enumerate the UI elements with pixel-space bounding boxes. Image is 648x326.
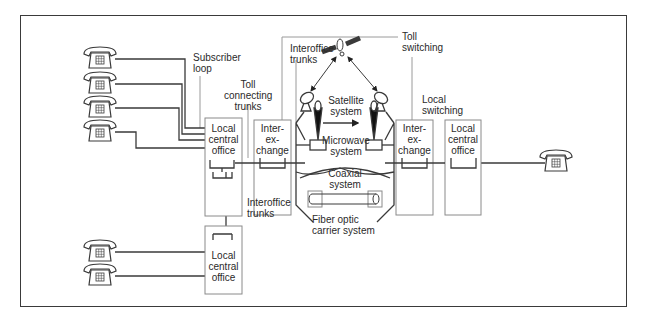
label-coaxial-system: Coaxial system — [325, 168, 365, 190]
node-local-office-left: Local central office — [205, 123, 242, 156]
label-microwave-system: Microwave system — [318, 135, 374, 157]
label-local-switching: Local switching — [422, 94, 463, 116]
node-local-office-bottom: Local central office — [205, 250, 242, 283]
label-interoffice-trunks-top: Interoffice trunks — [290, 43, 334, 65]
transmission-systems — [296, 38, 394, 222]
label-toll-switching: Toll switching — [402, 31, 443, 53]
label-satellite-system: Satellite system — [326, 95, 366, 117]
node-local-office-right: Local central office — [445, 123, 481, 156]
label-subscriber-loop: Subscriber loop — [193, 52, 241, 74]
telephones — [84, 47, 572, 285]
node-interexchange-right: Inter- ex- change — [396, 123, 433, 156]
label-interoffice-trunks-bottom: Interoffice trunks — [247, 197, 291, 219]
node-interexchange-left: Inter- ex- change — [254, 123, 291, 156]
label-fiber-optic: Fiber optic carrier system — [312, 214, 375, 236]
label-toll-connecting-trunks: Toll connecting trunks — [224, 79, 272, 112]
